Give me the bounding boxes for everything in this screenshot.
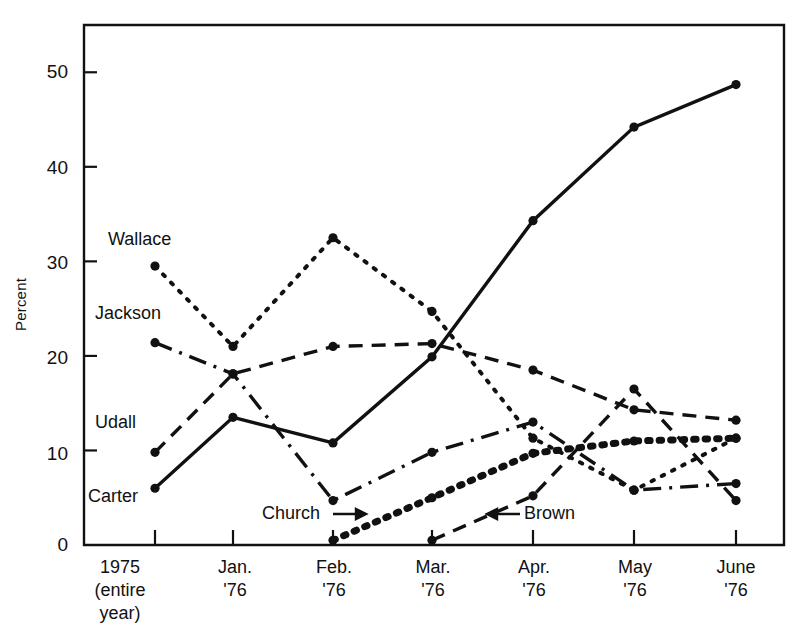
series-label-wallace: Wallace xyxy=(108,229,171,250)
data-point xyxy=(731,80,740,89)
y-tick-label-20: 20 xyxy=(24,347,68,369)
data-point xyxy=(629,486,638,495)
data-point xyxy=(528,434,537,443)
data-point xyxy=(427,448,436,457)
series-church xyxy=(328,434,740,545)
data-point xyxy=(427,307,436,316)
series-brown xyxy=(427,384,740,544)
x-tick-line-1: June xyxy=(676,556,796,579)
series-line xyxy=(155,238,736,490)
data-point xyxy=(528,216,537,225)
data-point xyxy=(528,449,537,458)
series-line xyxy=(155,85,736,489)
y-axis-title: Percent xyxy=(12,278,29,331)
x-tick-label-june: June '76 xyxy=(676,556,796,602)
x-tick-line-2: '76 xyxy=(676,579,796,602)
data-point xyxy=(629,405,638,414)
series-line xyxy=(432,389,736,540)
series-carter xyxy=(150,80,740,493)
data-point xyxy=(228,413,237,422)
series-line xyxy=(155,343,736,501)
data-point xyxy=(629,436,638,445)
series-label-jackson: Jackson xyxy=(95,303,161,324)
y-tick-label-0: 0 xyxy=(24,534,68,556)
y-tick-label-40: 40 xyxy=(24,157,68,179)
y-tick-label-10: 10 xyxy=(24,443,68,465)
data-point xyxy=(150,338,159,347)
x-tick-line-2: (entire xyxy=(60,579,180,602)
data-point xyxy=(427,352,436,361)
chart-figure: Percent 50 40 30 20 10 0 1975 (entire ye… xyxy=(0,0,801,639)
data-point xyxy=(427,536,436,545)
x-tick-line-3: year) xyxy=(60,602,180,625)
series-label-brown: Brown xyxy=(524,503,575,524)
x-tick-line-1: 1975 xyxy=(60,556,180,579)
data-point xyxy=(731,434,740,443)
data-point xyxy=(228,342,237,351)
data-point xyxy=(427,493,436,502)
series-label-carter: Carter xyxy=(88,486,138,507)
data-point xyxy=(328,496,337,505)
data-point xyxy=(629,384,638,393)
data-point xyxy=(427,339,436,348)
data-point xyxy=(528,417,537,426)
data-point xyxy=(731,416,740,425)
data-point xyxy=(328,233,337,242)
data-point xyxy=(328,438,337,447)
data-point xyxy=(731,479,740,488)
y-tick-label-50: 50 xyxy=(24,61,68,83)
data-point xyxy=(731,496,740,505)
y-tick-label-30: 30 xyxy=(24,252,68,274)
data-point xyxy=(328,536,337,545)
data-point xyxy=(150,261,159,270)
data-point xyxy=(528,365,537,374)
series-line xyxy=(155,344,736,453)
series-label-church: Church xyxy=(262,503,320,524)
plot-frame xyxy=(84,25,784,545)
data-point xyxy=(150,484,159,493)
data-point xyxy=(528,491,537,500)
data-point xyxy=(629,123,638,132)
x-tick-label-1975: 1975 (entire year) xyxy=(60,556,180,625)
data-point xyxy=(228,369,237,378)
data-point xyxy=(328,342,337,351)
series-wallace xyxy=(150,233,740,495)
series-label-udall: Udall xyxy=(95,412,136,433)
church-arrow-icon xyxy=(333,509,366,519)
data-point xyxy=(150,448,159,457)
